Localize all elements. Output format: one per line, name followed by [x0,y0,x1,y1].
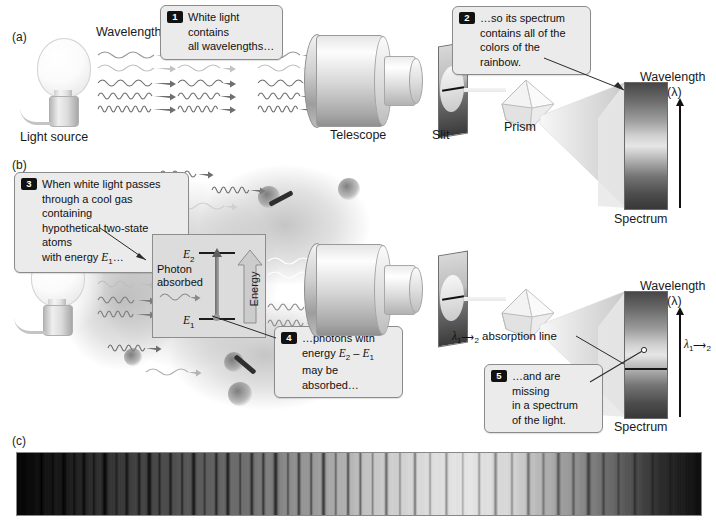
e1-subscript: 1 [190,321,194,330]
e1-symbol: E [183,314,190,326]
callout-4: 4 …photons with energy E2 – E1 may be ab… [274,326,403,398]
callout-1-text: White light contains all wavelengths… [188,10,275,54]
bulb-base-a [49,96,79,127]
telescope-eyepiece-cap [409,58,423,104]
panel-letter-c: (c) [12,434,26,448]
wavelength-axis-arrow-a [679,104,681,208]
slit-label-a: Slit [432,128,449,142]
wavelength-axis-arrow-b [679,313,681,417]
absorption-spectrum-panel-c [16,452,702,516]
panel-letter-a: (a) [12,30,27,44]
wavelength-axis-symbol-a: (λ) [667,85,682,99]
photon-absorbed-label: Photon absorbed [157,263,203,288]
callout-3-line-1: When white light passes [42,178,161,190]
spectrum-strip-a [624,82,668,210]
atom-upper-2 [338,178,360,200]
spectrum-gradient-a [625,83,667,209]
callout-4-line-3: may be absorbed… [302,364,359,391]
callout-1: 1 White light contains all wavelengths… [160,5,283,60]
telescope-label-a: Telescope [330,128,386,142]
absorption-line-sub2: 2 [474,336,478,345]
photon-absorbed-line-2: absorbed [157,276,203,289]
callout-2-badge: 2 [459,12,475,24]
callout-5-leader [586,348,646,386]
callout-1-badge: 1 [167,11,183,23]
incoming-photon-wave [159,290,203,304]
callout-4-minus: – [350,347,362,359]
e2-symbol: E [183,248,190,260]
spectrum-label-a: Spectrum [614,212,668,226]
wavelength-axis-label-b: Wavelength [640,279,706,293]
bulb-base-b [43,305,73,336]
wavelength-axis-label-a: Wavelength [640,70,706,84]
lambda-transition-axis-marker: λ1⟶2 [684,338,711,353]
callout-2-leader [540,56,640,96]
absorption-line-words: absorption line [482,330,557,342]
atom-lower-3 [228,382,252,406]
absorption-arrow-up [215,255,219,319]
absorption-spectrum-canvas [17,453,701,515]
wavelength-axis-symbol-b: (λ) [667,294,682,308]
panel-letter-b: (b) [12,158,27,172]
callout-5-badge: 5 [491,370,507,382]
photon-absorbed-line-1: Photon [157,263,203,276]
light-source-label-a: Light source [20,130,88,144]
spectrum-label-b: Spectrum [614,420,668,434]
wavelengths-label: Wavelengths [96,25,168,39]
bulb-glass-a [37,38,91,98]
callout-4-e2: E [339,347,346,359]
absorption-line-callout-text: λ1⟶2 absorption line [452,330,557,345]
bulb-cord-b [14,317,46,334]
energy-label-e1: E1 [183,310,194,330]
callout-4-e1-sub: 1 [369,353,373,362]
callout-4-leader [210,314,282,346]
callout-3-badge: 3 [21,178,37,190]
callout-5-text: …and are missing in a spectrum of the li… [512,369,595,427]
bulb-cord-a [20,108,52,125]
telescope-eyepiece-cap-b [409,267,423,313]
callout-4-line-2-pre: energy [302,347,339,359]
lambda-axis-sub2: 2 [706,344,710,353]
prism-label-a: Prism [504,120,536,134]
energy-label-e2: E2 [183,244,194,264]
atom-lower-1 [124,348,142,366]
figure-absorption-spectrum: (a) Light source Wavelengths [0,0,716,524]
energy-arrow-label: Energy [248,262,260,316]
callout-4-text: …photons with energy E2 – E1 may be abso… [302,331,395,392]
callout-3-line-4-pre: with energy [42,251,101,263]
callout-3-line-2: through a cool gas containing [42,193,133,220]
callout-4-badge: 4 [281,332,297,344]
